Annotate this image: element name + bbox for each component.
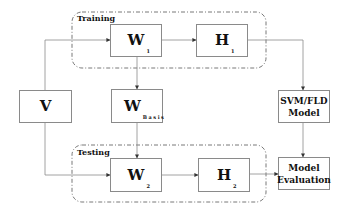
node-v-symbol: V: [40, 99, 52, 114]
node-h2-subscript: 2: [233, 184, 238, 189]
node-w1-symbol: W: [128, 31, 145, 49]
testing-label: Testing: [77, 148, 110, 156]
node-w2-subscript: 2: [146, 184, 151, 189]
node-model-evaluation: Model Evaluation: [278, 157, 330, 190]
node-h1-symbol: H: [215, 31, 229, 49]
edge-v-w1: [45, 40, 110, 90]
node-h2-symbol: H: [217, 166, 231, 184]
node-w1-subscript: 1: [146, 49, 151, 54]
node-wbasis: WBasis: [111, 89, 163, 123]
svm-line1: SVM/FLD: [280, 95, 327, 107]
node-svm-fld-model: SVM/FLD Model: [278, 90, 330, 123]
node-wbasis-symbol: W: [124, 97, 141, 115]
node-h2: H2: [198, 158, 250, 192]
eval-line2: Evaluation: [277, 174, 331, 186]
node-h1-subscript: 1: [231, 49, 236, 54]
node-wbasis-subscript: Basis: [143, 115, 166, 120]
training-label: Training: [77, 14, 115, 22]
node-h1: H1: [196, 24, 248, 57]
node-w1: W1: [110, 24, 162, 57]
diagram-canvas: Training Testing V W1 H1 WBasis W2 H2 SV…: [0, 0, 346, 214]
node-v: V: [19, 90, 72, 123]
svm-line2: Model: [280, 107, 327, 119]
node-w2: W2: [110, 158, 162, 192]
eval-line1: Model: [277, 162, 331, 174]
node-w2-symbol: W: [128, 166, 145, 184]
edge-h1-svm: [248, 40, 303, 90]
